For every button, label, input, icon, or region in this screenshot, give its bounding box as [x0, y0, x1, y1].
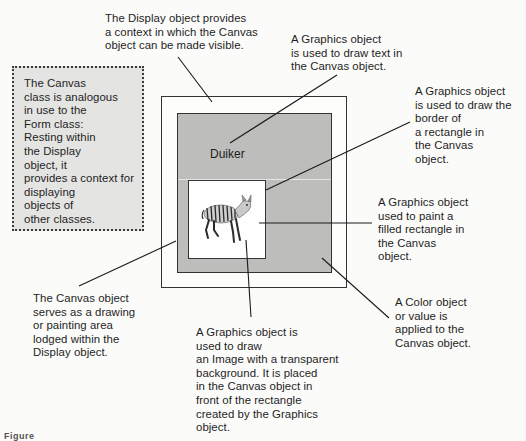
leader-canvas-area [79, 241, 176, 286]
leader-graphics-border [266, 122, 410, 190]
callout-graphics-border: A Graphics object is used to draw the bo… [415, 85, 512, 167]
callout-display-context: The Display object provides a context in… [105, 12, 258, 53]
leader-graphics-text [230, 75, 337, 143]
leader-display-context [178, 57, 212, 102]
callout-graphics-image: A Graphics object is used to draw an Ima… [196, 326, 339, 435]
leader-color-object [322, 258, 389, 318]
callout-graphics-text: A Graphics object is used to draw text i… [291, 33, 402, 74]
callout-color-object: A Color object or value is applied to th… [395, 296, 471, 350]
leader-graphics-image [246, 240, 251, 317]
figure-caption: Figure [4, 431, 35, 441]
callout-canvas-area: The Canvas object serves as a drawing or… [33, 292, 135, 360]
callout-graphics-fill: A Graphics object used to paint a filled… [378, 196, 468, 264]
